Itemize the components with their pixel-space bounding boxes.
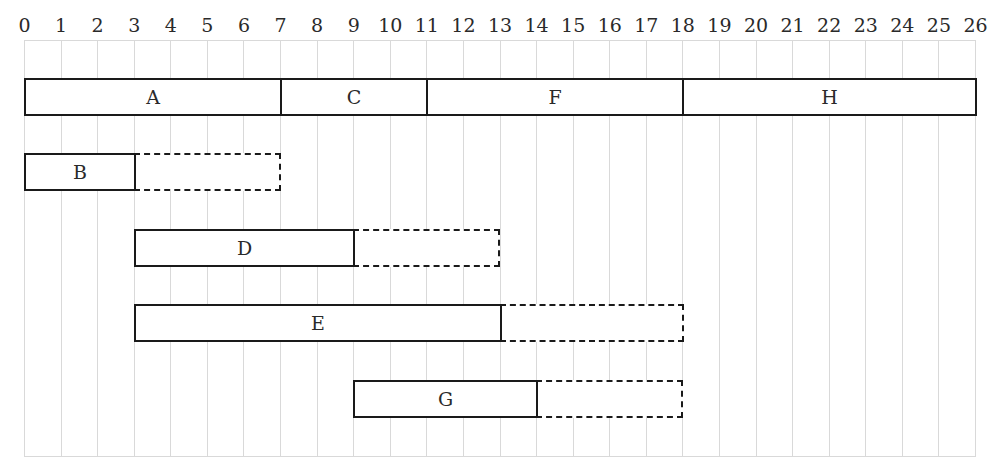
task-label: D — [237, 237, 252, 259]
task-label: A — [146, 86, 160, 108]
task-c-bar: C — [280, 78, 428, 116]
task-label: E — [311, 312, 325, 334]
axis-tick-label: 9 — [348, 14, 360, 36]
axis-tick-label: 22 — [817, 14, 841, 36]
axis-tick-label: 10 — [378, 14, 402, 36]
axis-tick-label: 5 — [201, 14, 213, 36]
axis-tick-label: 18 — [671, 14, 695, 36]
task-a-bar: A — [24, 78, 282, 116]
axis-tick-label: 25 — [927, 14, 951, 36]
axis-tick-label: 7 — [274, 14, 286, 36]
axis-tick-label: 24 — [890, 14, 914, 36]
axis-tick-label: 4 — [165, 14, 177, 36]
task-g-slack — [536, 380, 683, 418]
task-f-bar: F — [426, 78, 684, 116]
task-label: B — [73, 161, 87, 183]
task-label: G — [438, 388, 453, 410]
axis-tick-label: 8 — [311, 14, 323, 36]
task-d-bar: D — [134, 229, 355, 267]
task-e-slack — [500, 304, 684, 342]
task-g-bar: G — [353, 380, 538, 418]
axis-tick-label: 21 — [781, 14, 805, 36]
axis-tick-label: 15 — [561, 14, 585, 36]
axis-tick-label: 23 — [854, 14, 878, 36]
task-label: H — [821, 86, 838, 108]
axis-tick-label: 13 — [488, 14, 512, 36]
task-label: C — [347, 86, 362, 108]
grid-bottom-line — [24, 456, 976, 457]
task-b-bar: B — [24, 153, 136, 191]
axis-tick-label: 17 — [634, 14, 658, 36]
axis-tick-label: 11 — [415, 14, 439, 36]
axis-tick-label: 2 — [92, 14, 104, 36]
axis-tick-label: 16 — [598, 14, 622, 36]
axis-tick-label: 1 — [55, 14, 67, 36]
axis-tick-label: 20 — [744, 14, 768, 36]
task-h-bar: H — [682, 78, 977, 116]
axis-tick-label: 6 — [238, 14, 250, 36]
axis-tick-label: 26 — [963, 14, 987, 36]
task-d-slack — [353, 229, 500, 267]
axis-tick-label: 12 — [451, 14, 475, 36]
task-e-bar: E — [134, 304, 502, 342]
axis-tick-label: 0 — [18, 14, 30, 36]
axis-tick-label: 3 — [128, 14, 140, 36]
axis-tick-label: 14 — [524, 14, 548, 36]
task-label: F — [548, 86, 561, 108]
gantt-chart: 0123456789101112131415161718192021222324… — [0, 0, 1002, 468]
task-b-slack — [134, 153, 281, 191]
axis-tick-label: 19 — [707, 14, 731, 36]
